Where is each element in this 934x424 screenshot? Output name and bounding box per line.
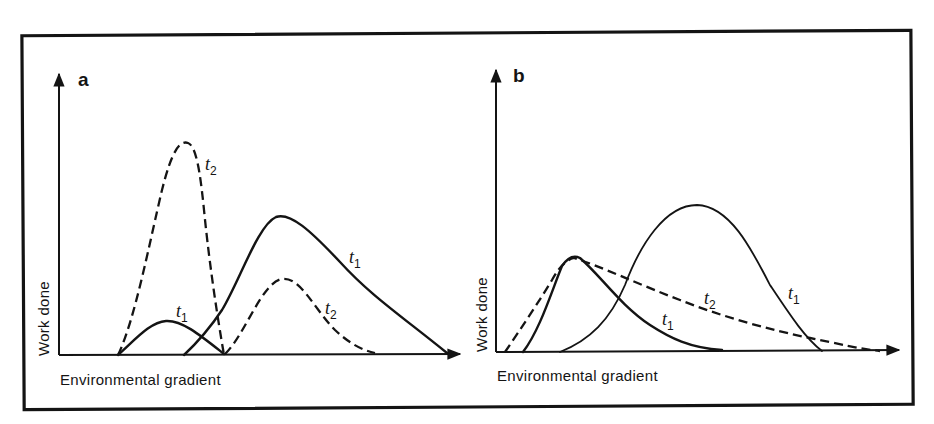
- figure: a Work done Environmental gradient t2 t1…: [0, 0, 934, 424]
- figure-svg: a Work done Environmental gradient t2 t1…: [0, 0, 934, 424]
- label-a-t2-upper: t2: [205, 154, 217, 178]
- label-b-t1-small: t1: [662, 309, 674, 333]
- label-a-t2-lower: t2: [325, 298, 337, 322]
- label-b-t1-large: t1: [788, 283, 800, 307]
- panel-b: b Work done Environmental gradient t1 t2…: [473, 65, 899, 384]
- panel-a: a Work done Environmental gradient t2 t1…: [35, 69, 460, 388]
- panel-letter-b: b: [513, 65, 525, 86]
- curve-a-t1-large: [184, 216, 447, 355]
- y-axis-label-a: Work done: [35, 281, 52, 356]
- label-a-t1-large: t1: [349, 247, 361, 271]
- x-axis-label-a: Environmental gradient: [60, 371, 221, 388]
- panel-letter-a: a: [78, 69, 89, 90]
- curve-a-t1-small: [118, 321, 224, 355]
- x-axis-b: [496, 350, 899, 352]
- curve-b-t2: [505, 258, 880, 352]
- y-axis-label-b: Work done: [473, 277, 490, 352]
- x-axis-label-b: Environmental gradient: [497, 367, 658, 384]
- curve-a-t2-tall: [118, 143, 224, 355]
- curve-a-t2-lower: [225, 279, 375, 354]
- label-a-t1-small: t1: [176, 301, 188, 325]
